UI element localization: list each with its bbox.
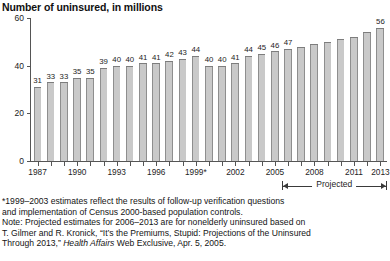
footnote-line-4: T. Gilmer and R. Kronick, “It’s the Prem… bbox=[2, 228, 388, 239]
x-tick-label: 2013 bbox=[371, 167, 389, 177]
footnotes: *1999–2003 estimates reflect the results… bbox=[2, 196, 388, 249]
bar-2008 bbox=[308, 18, 321, 161]
bar-1987: 31 bbox=[31, 18, 44, 161]
x-tick-label: 2008 bbox=[305, 167, 323, 177]
bar-rect bbox=[218, 66, 226, 161]
bar-rect bbox=[86, 78, 94, 161]
bar-value-label: 42 bbox=[165, 51, 174, 59]
bar-rect bbox=[297, 47, 305, 161]
bar-value-label: 47 bbox=[284, 39, 293, 47]
footnote-line-1: *1999–2003 estimates reflect the results… bbox=[2, 196, 388, 207]
bar-rect bbox=[126, 66, 134, 161]
footnote-line-5-post: Web Exclusive, Apr. 5, 2005. bbox=[114, 238, 226, 248]
bar-1991: 35 bbox=[84, 18, 97, 161]
footnote-line-5: Through 2013,” Health Affairs Web Exclus… bbox=[2, 238, 388, 249]
bar-2003: 44 bbox=[242, 18, 255, 161]
bar-value-label: 35 bbox=[73, 68, 82, 76]
x-tick-label: 2002 bbox=[226, 167, 244, 177]
x-tick-mark bbox=[209, 162, 210, 166]
bar-rect bbox=[284, 49, 292, 161]
bar-rect bbox=[363, 32, 371, 161]
bar-1998: 43 bbox=[176, 18, 189, 161]
bar-value-label: 41 bbox=[231, 54, 240, 62]
bar-rect bbox=[100, 68, 108, 161]
x-tick-mark bbox=[143, 162, 144, 166]
bar-value-label: 46 bbox=[271, 42, 280, 50]
bar-rect bbox=[337, 39, 345, 161]
y-tick-mark bbox=[27, 18, 30, 19]
bar-value-label: 33 bbox=[60, 73, 69, 81]
bar-value-label: 40 bbox=[218, 56, 227, 64]
x-tick-mark bbox=[38, 162, 39, 166]
x-tick-mark bbox=[156, 162, 157, 166]
bar-2011 bbox=[347, 18, 360, 161]
bar-rect bbox=[231, 63, 239, 161]
bar-value-label: 39 bbox=[99, 58, 108, 66]
plot-area: 3133333535394040414142434440404144454647… bbox=[30, 18, 387, 162]
bar-rect bbox=[179, 59, 187, 161]
projected-label: Projected bbox=[312, 179, 356, 189]
chart-figure: Number of uninsured, in millions 3133333… bbox=[0, 0, 390, 261]
x-tick-mark bbox=[380, 162, 381, 166]
footnote-line-2: and implementation of Census 2000-based … bbox=[2, 207, 388, 218]
x-tick-label: 1990 bbox=[68, 167, 86, 177]
bar-value-label: 43 bbox=[178, 49, 187, 57]
x-tick-mark bbox=[367, 162, 368, 166]
x-tick-label: 1993 bbox=[107, 167, 125, 177]
bar-value-label: 44 bbox=[244, 46, 253, 54]
bar-rect bbox=[152, 63, 160, 161]
bar-1994: 40 bbox=[123, 18, 136, 161]
y-tick-label: 0 bbox=[19, 156, 24, 166]
bar-value-label: 33 bbox=[46, 73, 55, 81]
x-tick-mark bbox=[183, 162, 184, 166]
bar-series: 3133333535394040414142434440404144454647… bbox=[31, 18, 387, 161]
footnote-journal-name: Health Affairs bbox=[63, 238, 114, 248]
footnote-line-5-pre: Through 2013,” bbox=[2, 238, 63, 248]
x-tick-mark bbox=[169, 162, 170, 166]
bar-2013: 56 bbox=[374, 18, 387, 161]
bar-2001: 40 bbox=[216, 18, 229, 161]
bar-1996: 41 bbox=[150, 18, 163, 161]
y-tick-label: 60 bbox=[15, 13, 24, 23]
bar-value-label: 41 bbox=[139, 54, 148, 62]
bar-value-label: 31 bbox=[33, 77, 42, 85]
x-tick-mark bbox=[104, 162, 105, 166]
bar-2012 bbox=[361, 18, 374, 161]
bar-value-label: 40 bbox=[112, 56, 121, 64]
chart-title: Number of uninsured, in millions bbox=[2, 1, 163, 13]
x-tick-mark bbox=[328, 162, 329, 166]
bar-rect bbox=[271, 51, 279, 161]
bar-2004: 45 bbox=[255, 18, 268, 161]
bar-rect bbox=[47, 82, 55, 161]
x-tick-mark bbox=[262, 162, 263, 166]
bar-rect bbox=[324, 42, 332, 161]
bar-2000: 40 bbox=[202, 18, 215, 161]
bar-rect bbox=[258, 54, 266, 161]
y-tick-label: 20 bbox=[15, 108, 24, 118]
x-tick-mark bbox=[51, 162, 52, 166]
bar-value-label: 40 bbox=[126, 56, 135, 64]
x-tick-mark bbox=[288, 162, 289, 166]
x-tick-mark bbox=[222, 162, 223, 166]
bar-rect bbox=[245, 56, 253, 161]
bar-value-label: 45 bbox=[257, 44, 266, 52]
y-tick-mark bbox=[27, 161, 30, 162]
bar-rect bbox=[60, 82, 68, 161]
x-tick-mark bbox=[275, 162, 276, 166]
bar-1990: 35 bbox=[71, 18, 84, 161]
x-tick-mark bbox=[354, 162, 355, 166]
bar-2007 bbox=[295, 18, 308, 161]
bar-value-label: 35 bbox=[86, 68, 95, 76]
x-tick-mark bbox=[314, 162, 315, 166]
bar-value-label: 44 bbox=[191, 46, 200, 54]
footnote-line-3: Note: Projected estimates for 2006–2013 … bbox=[2, 217, 388, 228]
bar-value-label: 56 bbox=[376, 18, 385, 26]
x-tick-mark bbox=[196, 162, 197, 166]
bar-rect bbox=[34, 87, 42, 161]
bar-1993: 40 bbox=[110, 18, 123, 161]
y-tick-mark bbox=[27, 113, 30, 114]
x-tick-mark bbox=[249, 162, 250, 166]
bar-value-label: 40 bbox=[205, 56, 214, 64]
bar-2010 bbox=[334, 18, 347, 161]
bar-1997: 42 bbox=[163, 18, 176, 161]
